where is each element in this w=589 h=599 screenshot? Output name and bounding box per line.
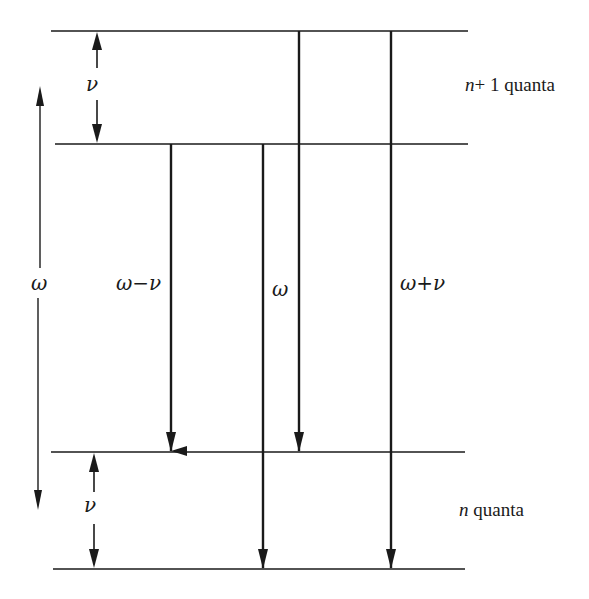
- omega-span-arrow: [34, 86, 44, 510]
- transition-label-omega-minus-nu: ω−ν: [116, 273, 161, 293]
- transition-label-omega: ω: [272, 279, 288, 299]
- n-symbol: n: [465, 74, 475, 95]
- omega-span-label: ω: [31, 273, 47, 293]
- group-label-n-quanta: n quanta: [459, 500, 524, 519]
- nu-label-lower: ν: [84, 495, 96, 515]
- transition-label-omega-plus-nu: ω+ν: [400, 273, 445, 293]
- group-label-rest: + 1 quanta: [475, 74, 555, 95]
- group-label-rest: quanta: [469, 499, 524, 520]
- group-label-n-plus-1-quanta: n+ 1 quanta: [465, 75, 555, 94]
- n-symbol: n: [459, 499, 469, 520]
- nu-label-upper: ν: [86, 74, 98, 94]
